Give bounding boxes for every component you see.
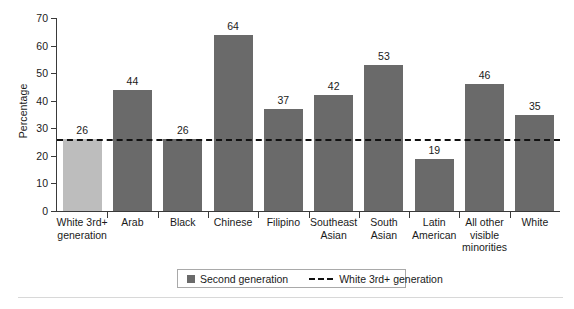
y-axis-tick <box>51 73 57 74</box>
y-axis-tick <box>51 18 57 19</box>
legend-dashed-line-icon <box>309 278 333 280</box>
bottom-divider <box>18 297 563 298</box>
x-axis-category-label: White <box>498 216 572 229</box>
bar-chart-figure: Percentage 010203040506070 2644266437425… <box>0 0 574 309</box>
legend-swatch-icon <box>187 275 195 283</box>
bar-value-label: 64 <box>213 21 253 32</box>
plot-area: 010203040506070 26442664374253194635 <box>57 18 560 211</box>
bar-value-label: 37 <box>263 95 303 106</box>
bar-value-label: 46 <box>465 70 505 81</box>
legend-item-second-generation: Second generation <box>187 273 288 285</box>
category-label-line: White <box>498 216 572 229</box>
bar-value-label: 35 <box>515 101 555 112</box>
legend-label-second-generation: Second generation <box>200 273 288 285</box>
y-axis-tick-label: 70 <box>21 13 48 24</box>
y-axis-tick-label: 10 <box>21 178 48 189</box>
y-axis-tick <box>51 183 57 184</box>
reference-line-white-3rd-generation <box>57 139 560 141</box>
bar-arab <box>113 90 152 211</box>
y-axis-tick-label: 20 <box>21 151 48 162</box>
y-axis-tick <box>51 101 57 102</box>
bar-value-label: 42 <box>314 81 354 92</box>
y-axis-tick-label: 0 <box>21 206 48 217</box>
bar-all-other-visible-minorities <box>465 84 504 211</box>
bar-white <box>515 115 554 212</box>
bar-chinese <box>214 35 253 211</box>
chart-legend: Second generation White 3rd+ generation <box>177 269 406 288</box>
y-axis-tick <box>51 211 57 212</box>
y-axis-tick-label: 30 <box>21 123 48 134</box>
category-label-line: minorities <box>448 241 522 254</box>
y-axis-tick-label: 40 <box>21 96 48 107</box>
y-axis-tick-label: 50 <box>21 68 48 79</box>
y-axis-tick <box>51 128 57 129</box>
bar-filipino <box>264 109 303 211</box>
bar-south-asian <box>364 65 403 211</box>
category-label-line: visible <box>448 229 522 242</box>
y-axis-tick-label: 60 <box>21 41 48 52</box>
bar-southeast-asian <box>314 95 353 211</box>
bar-white-3rd-generation <box>63 139 102 211</box>
bar-value-label: 26 <box>62 125 102 136</box>
legend-label-white-3rd-generation: White 3rd+ generation <box>339 273 443 285</box>
bar-value-label: 26 <box>163 125 203 136</box>
bar-value-label: 19 <box>414 145 454 156</box>
category-label-line: generation <box>45 229 119 242</box>
bar-black <box>163 139 202 211</box>
bar-latin-american <box>415 159 454 211</box>
legend-item-white-3rd-generation: White 3rd+ generation <box>309 273 443 285</box>
y-axis-tick <box>51 156 57 157</box>
bar-value-label: 44 <box>112 76 152 87</box>
bar-value-label: 53 <box>364 51 404 62</box>
y-axis-tick <box>51 46 57 47</box>
